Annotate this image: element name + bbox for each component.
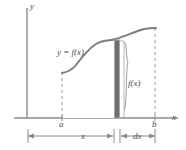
arrow-dx-right	[149, 134, 155, 139]
lower-bound-label: a	[59, 120, 64, 129]
strip-height-label: f(x)	[128, 79, 141, 88]
y-axis-label: y	[30, 2, 34, 11]
arrow-x-right	[107, 134, 113, 139]
upper-bound-label: b	[152, 120, 157, 129]
x-axis-label: x	[172, 113, 176, 122]
figure-container: y x y = f(x) f(x) a b x dx	[0, 0, 186, 150]
distance-dimension-label: x	[81, 132, 85, 141]
curve-equation-label: y = f(x)	[57, 48, 84, 57]
representative-strip	[115, 40, 120, 118]
width-dimension-label: dx	[133, 132, 142, 141]
diagram-canvas	[0, 0, 186, 150]
arrow-dx-left	[121, 134, 127, 139]
arrow-x-left	[28, 134, 34, 139]
height-brace	[124, 42, 128, 110]
